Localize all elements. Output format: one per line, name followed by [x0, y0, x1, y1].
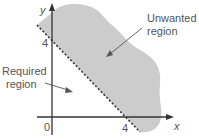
x-tick-4: 4 — [122, 122, 128, 134]
unwanted-region-shade — [37, 4, 161, 132]
y-tick-4: 4 — [42, 37, 48, 49]
x-axis-label: x — [174, 120, 180, 132]
unwanted-region-label: Unwanted region — [147, 12, 197, 38]
required-pointer — [45, 83, 68, 90]
unwanted-line1: Unwanted — [147, 12, 197, 25]
x-axis-arrow-icon — [166, 114, 174, 120]
required-pointer-arrow-icon — [65, 87, 73, 93]
origin-label: 0 — [44, 121, 50, 133]
required-line1: Required — [2, 65, 47, 78]
y-axis-arrow-icon — [49, 3, 55, 11]
y-axis-label: y — [40, 4, 46, 16]
unwanted-line2: region — [147, 25, 197, 38]
required-line2: region — [2, 78, 47, 91]
required-region-label: Required region — [2, 65, 47, 91]
